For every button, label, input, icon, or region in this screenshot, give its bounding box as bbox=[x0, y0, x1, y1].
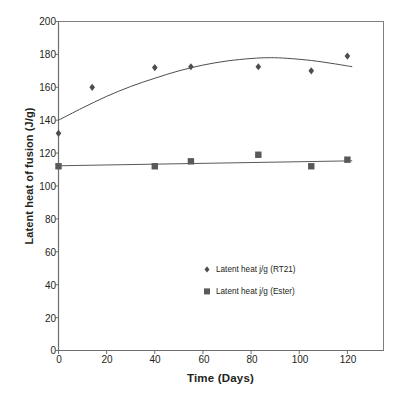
plot-canvas: Latent heat j/g (RT21)Latent heat j/g (E… bbox=[0, 0, 405, 396]
svg-text:Latent heat j/g (RT21): Latent heat j/g (RT21) bbox=[216, 265, 296, 274]
chart-figure: Latent heat of fusion (J/g) 200 180 160 … bbox=[0, 0, 405, 396]
svg-text:Latent heat j/g (Ester): Latent heat j/g (Ester) bbox=[216, 287, 295, 296]
plot-border bbox=[59, 22, 384, 351]
